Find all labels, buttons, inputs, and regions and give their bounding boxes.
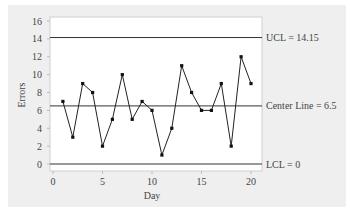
data-point: [170, 127, 173, 130]
x-tick-label: 5: [100, 176, 105, 187]
data-point: [160, 153, 163, 156]
data-point: [190, 91, 193, 94]
x-axis-label: Day: [144, 190, 161, 201]
data-point: [240, 55, 243, 58]
data-point: [230, 145, 233, 148]
data-point: [91, 91, 94, 94]
y-tick-label: 14: [32, 33, 42, 44]
y-tick-label: 10: [32, 69, 42, 80]
data-point: [61, 100, 64, 103]
x-tick-label: 20: [246, 176, 256, 187]
data-point: [111, 118, 114, 121]
data-point: [220, 82, 223, 85]
data-point: [141, 100, 144, 103]
reference-line-label: Center Line = 6.5: [266, 100, 337, 111]
data-point: [210, 109, 213, 112]
plot-area: [50, 17, 262, 171]
control-chart: 024681012141605101520DayErrorsUCL = 14.1…: [0, 0, 350, 216]
data-point: [71, 136, 74, 139]
x-tick-label: 15: [197, 176, 207, 187]
data-point: [81, 82, 84, 85]
x-tick-label: 0: [51, 176, 56, 187]
data-point: [121, 73, 124, 76]
y-axis-label: Errors: [16, 82, 27, 107]
y-tick-label: 12: [32, 51, 42, 62]
data-point: [249, 82, 252, 85]
x-tick-label: 10: [147, 176, 157, 187]
data-point: [131, 118, 134, 121]
reference-line-label: LCL = 0: [266, 159, 300, 170]
data-point: [150, 109, 153, 112]
data-point: [200, 109, 203, 112]
y-tick-label: 2: [37, 141, 42, 152]
data-point: [180, 64, 183, 67]
y-tick-label: 16: [32, 16, 42, 27]
y-tick-label: 4: [37, 123, 42, 134]
y-tick-label: 0: [37, 159, 42, 170]
data-point: [101, 145, 104, 148]
reference-line-label: UCL = 14.15: [266, 32, 319, 43]
y-tick-label: 8: [37, 87, 42, 98]
y-tick-label: 6: [37, 105, 42, 116]
